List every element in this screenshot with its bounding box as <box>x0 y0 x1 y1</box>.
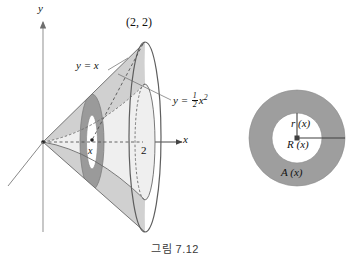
area-label: A (x) <box>281 167 302 178</box>
parabola-equation-prefix: y = <box>173 94 191 106</box>
x-tick-label-2: 2 <box>141 145 147 156</box>
parabola-equation-label: y = 12x2 <box>173 92 208 109</box>
y-axis-label: y <box>38 3 43 14</box>
slice-position-label: x <box>88 146 92 156</box>
outer-radius-label: R (x) <box>287 139 309 150</box>
parabola-exponent: 2 <box>204 93 208 102</box>
figure-svg <box>0 0 350 265</box>
slice-center-dot <box>90 138 94 142</box>
figure-caption: 그림 7.12 <box>0 240 350 256</box>
fraction-numerator: 1 <box>192 92 198 100</box>
intersection-point-label: (2, 2) <box>126 16 152 28</box>
figure-container: y x (2, 2) y = x y = 12x2 2 x r (x) R (x… <box>0 0 350 265</box>
fraction-denominator: 2 <box>192 100 198 109</box>
perspective-generator-line <box>8 142 43 186</box>
inner-radius-label: r (x) <box>291 118 310 129</box>
x-axis-label: x <box>183 134 188 145</box>
line-equation-label: y = x <box>76 60 99 71</box>
parabola-coefficient-fraction: 12 <box>192 92 198 109</box>
